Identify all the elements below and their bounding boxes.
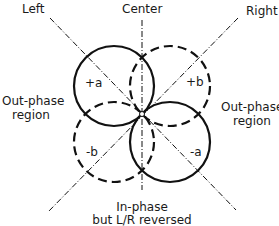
lobe-label-minus-a: -a <box>190 145 202 159</box>
label-lr-reversed: but L/R reversed <box>82 213 202 226</box>
label-right: Right <box>246 4 278 18</box>
lobe-label-plus-b: +b <box>186 75 204 89</box>
label-out-phase-right-region: region <box>233 114 271 128</box>
lobe-label-minus-b: -b <box>86 145 98 159</box>
origin-point <box>140 112 145 117</box>
label-out-phase-left: Out-phase <box>2 94 64 108</box>
label-out-phase-right: Out-phase <box>221 100 279 114</box>
label-left: Left <box>22 2 45 16</box>
lobe-label-plus-a: +a <box>85 76 102 90</box>
label-center: Center <box>122 2 162 16</box>
label-in-phase: In-phase <box>82 200 202 214</box>
label-out-phase-left-region: region <box>12 108 50 122</box>
